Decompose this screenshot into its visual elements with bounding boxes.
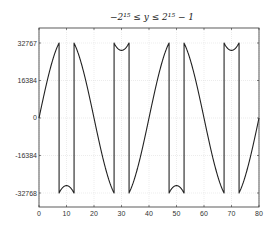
x-tick-label: 0 (37, 210, 41, 217)
chart-title: −2¹⁵ ≤ y ≤ 2¹⁵ − 1 (110, 12, 194, 22)
y-tick-label: -16384 (15, 152, 37, 159)
x-tick-label: 10 (63, 210, 71, 217)
x-tick-label: 20 (90, 210, 98, 217)
y-tick-label: 0 (33, 114, 37, 121)
x-tick-label: 30 (118, 210, 126, 217)
x-tick-label: 80 (255, 210, 263, 217)
x-tick-label: 50 (173, 210, 181, 217)
x-tick-label: 70 (228, 210, 236, 217)
y-tick-label: 16384 (18, 77, 38, 84)
x-tick-label: 40 (145, 210, 153, 217)
x-tick-label: 60 (200, 210, 208, 217)
chart: −2¹⁵ ≤ y ≤ 2¹⁵ − 1 01020304050607080 327… (0, 0, 277, 228)
y-tick-label: -32768 (15, 190, 37, 197)
y-tick-label: 32767 (18, 40, 38, 47)
